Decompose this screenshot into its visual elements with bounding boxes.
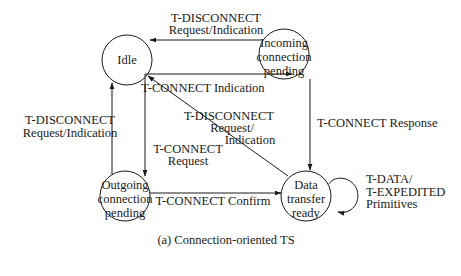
state-incoming-label-2: connection xyxy=(257,50,313,64)
label-idle-to-outgoing-2: Request xyxy=(168,154,209,168)
state-incoming-label-3: pending xyxy=(264,64,305,78)
state-idle-label: Idle xyxy=(117,53,137,67)
label-idle-to-incoming: T-CONNECT Indication xyxy=(141,81,265,95)
label-outgoing-to-idle-1: T-DISCONNECT xyxy=(25,113,115,127)
transition-data-self-loop: T-DATA/ T-EXPEDITED Primitives xyxy=(329,172,445,212)
figure-caption: (a) Connection-oriented TS xyxy=(157,233,294,247)
state-data-label-1: Data xyxy=(294,178,318,192)
transition-incoming-to-data: T-CONNECT Response xyxy=(310,79,438,170)
state-incoming-connection-pending: Incoming connection pending xyxy=(257,29,313,79)
label-incoming-to-idle-2: Request/Indication xyxy=(169,23,264,37)
transition-outgoing-to-idle: T-DISCONNECT Request/Indication xyxy=(23,83,118,174)
state-transition-diagram: Idle Incoming connection pending Outgoin… xyxy=(0,0,461,276)
state-data-label-2: transfer xyxy=(287,192,326,206)
label-data-to-idle-3: Indication xyxy=(225,133,276,147)
label-data-loop-3: Primitives xyxy=(366,197,418,211)
transition-outgoing-to-data: T-CONNECT Confirm xyxy=(150,193,281,208)
state-outgoing-label-3: pending xyxy=(105,206,146,220)
label-incoming-to-data: T-CONNECT Response xyxy=(317,116,438,130)
label-outgoing-to-idle-2: Request/Indication xyxy=(23,126,118,140)
label-outgoing-to-data: T-CONNECT Confirm xyxy=(156,194,271,208)
transition-incoming-to-idle: T-DISCONNECT Request/Indication xyxy=(150,11,264,40)
state-outgoing-label-1: Outgoing xyxy=(101,178,149,192)
state-incoming-label-1: Incoming xyxy=(260,36,309,50)
state-outgoing-label-2: connection xyxy=(98,192,154,206)
state-data-label-3: ready xyxy=(292,206,321,220)
label-data-loop-1: T-DATA/ xyxy=(366,172,413,186)
state-data-transfer-ready: Data transfer ready xyxy=(281,171,331,221)
state-outgoing-connection-pending: Outgoing connection pending xyxy=(98,171,154,221)
loop-arrow-icon xyxy=(329,178,358,212)
